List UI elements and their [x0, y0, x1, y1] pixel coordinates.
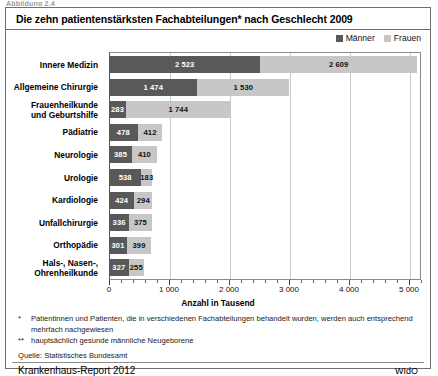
category-label: Hals-, Nasen-,Ohrenheilkunde [3, 258, 98, 278]
tick-label: 4 000 [339, 285, 359, 294]
tick-minor [121, 280, 122, 283]
bar-value-frauen: 2 609 [329, 60, 349, 69]
tick-minor [217, 280, 218, 283]
bar-row: 385410 [109, 146, 157, 163]
bar-value-maenner: 301 [112, 241, 125, 250]
legend-swatch-icon-maenner [336, 35, 343, 42]
footnote: *Patientinnen und Patienten, die in vers… [18, 314, 422, 335]
bar-row: 478412 [109, 124, 162, 141]
figure-page: Abbildung 2.4 Die zehn patientenstärkste… [0, 0, 438, 376]
legend-label-frauen: Frauen [394, 33, 421, 43]
tick-label: 2 000 [219, 285, 239, 294]
bar-row: 1 4741 530 [109, 79, 289, 96]
report-title: Krankenhaus-Report 2012 [18, 365, 135, 376]
bar-value-maenner: 1 474 [143, 83, 163, 92]
page-title: Die zehn patientenstärksten Fachabteilun… [6, 13, 353, 25]
bar-row: 424294 [109, 192, 152, 209]
bar-segment-maenner: 301 [109, 237, 127, 254]
bar-segment-frauen: 294 [134, 192, 152, 209]
tick-minor [253, 280, 254, 283]
tick-label: 5 000 [399, 285, 419, 294]
tick-label: 0 [107, 285, 111, 294]
bar-row: 336375 [109, 214, 152, 231]
bar-value-maenner: 385 [114, 150, 127, 159]
footnote-mark: * [18, 314, 27, 335]
bar-segment-maenner: 1 474 [109, 79, 197, 96]
footnote-mark: ** [18, 336, 27, 347]
category-label: Kardiologie [3, 195, 98, 205]
bar-value-frauen: 399 [133, 241, 146, 250]
publisher-logo: WIdO [395, 366, 418, 376]
legend-label-maenner: Männer [346, 33, 375, 43]
tick-label: 3 000 [279, 285, 299, 294]
x-axis-title: Anzahl in Tausend [6, 298, 430, 308]
legend-swatch-icon-frauen [384, 35, 391, 42]
bar-value-frauen: 1 530 [234, 83, 254, 92]
footer-divider [12, 362, 424, 363]
bar-value-frauen: 1 744 [169, 105, 189, 114]
tick-minor [265, 280, 266, 283]
bar-segment-frauen: 399 [127, 237, 151, 254]
bar-row: 301399 [109, 237, 151, 254]
category-label: Frauenheilkundeund Geburtshilfe [3, 100, 98, 120]
tick-minor [373, 280, 374, 283]
bar-row: 283**1 744 [109, 101, 231, 118]
plot-area: 2 5232 6091 4741 530283**1 7444784123854… [104, 52, 421, 280]
bar-segment-maenner: 2 523 [109, 56, 260, 73]
bar-segment-maenner: 538 [109, 169, 141, 186]
bar-segment-maenner: 385 [109, 146, 132, 163]
tick-minor [397, 280, 398, 283]
bar-segment-maenner: 283** [109, 101, 126, 118]
bar-segment-frauen: 1 530 [197, 79, 289, 96]
tick-minor [181, 280, 182, 283]
bar-value-frauen: 375 [134, 218, 147, 227]
title-bar: Die zehn patientenstärksten Fachabteilun… [6, 8, 430, 30]
category-axis-labels: Innere MedizinAllgemeine ChirurgieFrauen… [6, 52, 101, 280]
category-label: Unfallchirurgie [3, 218, 98, 228]
category-label: Innere Medizin [3, 60, 98, 70]
legend-item-maenner: Männer [336, 33, 375, 43]
bar-segment-maenner: 424 [109, 192, 134, 209]
chart-legend: Männer Frauen [336, 33, 421, 43]
tick-minor [361, 280, 362, 283]
bar-segment-frauen: 255 [129, 259, 144, 276]
tick-minor [193, 280, 194, 283]
bar-value-maenner: 424 [115, 196, 128, 205]
figure-caption: Abbildung 2.4 [6, 0, 55, 6]
tick-minor [133, 280, 134, 283]
bar-segment-frauen: 410 [132, 146, 157, 163]
bar-value-frauen: 183 [140, 173, 153, 182]
bar-segment-maenner: 336 [109, 214, 129, 231]
bar-row: 538183 [109, 169, 152, 186]
bar-segment-frauen: 1 744 [126, 101, 231, 118]
tick-minor [145, 280, 146, 283]
bar-value-maenner: 538 [119, 173, 132, 182]
chart-frame: Die zehn patientenstärksten Fachabteilun… [5, 7, 431, 369]
source-text: Quelle: Statistisches Bundesamt [18, 351, 127, 360]
footnotes: *Patientinnen und Patienten, die in vers… [18, 314, 422, 348]
tick-minor [313, 280, 314, 283]
bar-segment-frauen: 375 [129, 214, 152, 231]
category-label: Neurologie [3, 150, 98, 160]
bar-value-maenner: 283 [111, 105, 124, 114]
bar-row: 2 5232 609 [109, 56, 417, 73]
tick-minor [277, 280, 278, 283]
category-label: Allgemeine Chirurgie [3, 82, 98, 92]
category-label: Orthopädie [3, 240, 98, 250]
tick-minor [241, 280, 242, 283]
category-label: Pädiatrie [3, 127, 98, 137]
tick-minor [205, 280, 206, 283]
tick-label: 1 000 [159, 285, 179, 294]
bar-segment-frauen: 183 [141, 169, 152, 186]
footnote-text: Patientinnen und Patienten, die in versc… [31, 314, 422, 335]
footnote-text: hauptsächlich gesunde männliche Neugebor… [31, 336, 422, 347]
bar-row: 327255 [109, 259, 144, 276]
bar-value-frauen: 412 [144, 128, 157, 137]
x-axis-tick-labels: 01 0002 0003 0004 0005 000 [104, 285, 434, 297]
footer: Krankenhaus-Report 2012 WIdO [18, 365, 418, 376]
tick-minor [325, 280, 326, 283]
tick-minor [421, 280, 422, 283]
bar-segment-frauen: 2 609 [260, 56, 417, 73]
bar-segment-maenner: 478 [109, 124, 138, 141]
bar-value-maenner: 2 523 [175, 60, 195, 69]
